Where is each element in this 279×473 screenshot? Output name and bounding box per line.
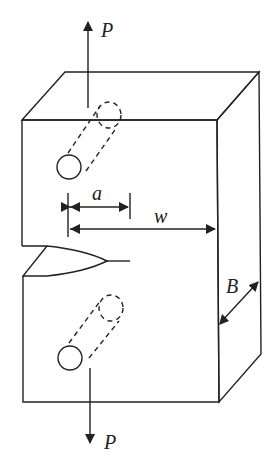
bottom-pin-hole — [58, 346, 82, 370]
thickness-label: B — [226, 275, 238, 297]
crack-length-label: a — [92, 182, 102, 204]
load-label-top: P — [100, 19, 113, 41]
top-pin-back — [97, 102, 121, 128]
top-pin-hole — [57, 155, 81, 179]
right-face — [217, 72, 261, 402]
bottom-pin-back — [99, 295, 123, 321]
load-label-bottom: P — [103, 431, 116, 453]
compact-tension-diagram: P P a w B — [0, 0, 279, 473]
notch — [22, 246, 107, 276]
width-label: w — [154, 205, 168, 227]
